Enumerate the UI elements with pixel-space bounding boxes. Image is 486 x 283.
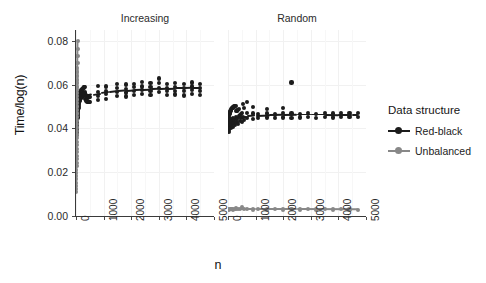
data-point — [104, 97, 108, 101]
data-point — [124, 94, 128, 98]
data-point — [76, 70, 79, 74]
x-tick-label: 1000 — [260, 199, 271, 221]
y-tick-label: 0.00 — [30, 211, 68, 221]
data-point — [273, 116, 277, 120]
panel-random — [228, 30, 366, 216]
data-point — [190, 92, 194, 96]
data-point — [256, 116, 260, 120]
data-point — [356, 111, 360, 115]
data-point — [306, 115, 310, 119]
data-point — [140, 92, 144, 96]
gridline-vertical-minor — [325, 30, 326, 216]
data-point — [289, 80, 293, 84]
data-point — [298, 207, 302, 211]
x-tick-mark — [186, 217, 187, 220]
legend-label: Red-black — [415, 125, 462, 137]
data-point — [331, 111, 335, 115]
data-point — [298, 115, 302, 119]
data-point — [331, 115, 335, 119]
x-tick-mark — [338, 217, 339, 220]
data-point — [251, 207, 255, 211]
data-point — [245, 100, 249, 104]
x-tick-mark — [366, 217, 367, 220]
legend-item-red-black[interactable]: Red-black — [388, 122, 486, 139]
data-point — [281, 115, 285, 119]
data-point — [76, 47, 80, 51]
data-point — [76, 39, 80, 43]
gridline-vertical — [256, 30, 257, 216]
data-point — [76, 161, 79, 165]
gridline-vertical — [283, 30, 284, 216]
legend-key-icon — [388, 125, 410, 137]
data-point — [76, 132, 79, 136]
legend-label: Unbalanced — [415, 145, 471, 157]
x-tick-label: 0 — [232, 215, 243, 221]
data-point — [298, 112, 302, 116]
data-point — [281, 207, 285, 211]
data-point — [76, 61, 80, 65]
data-point — [314, 112, 318, 116]
data-point — [289, 116, 293, 120]
x-tick-label: 2000 — [287, 199, 298, 221]
data-point — [124, 82, 128, 86]
data-point — [76, 181, 78, 185]
x-tick-label: 1000 — [108, 199, 119, 221]
data-point — [76, 168, 78, 172]
x-tick-mark — [76, 217, 77, 220]
x-tick-mark — [131, 217, 132, 220]
data-point — [173, 92, 177, 96]
data-point — [323, 115, 327, 119]
data-point — [76, 147, 79, 151]
gridline-vertical-minor — [200, 30, 201, 216]
x-tick-mark — [228, 217, 229, 220]
data-point — [104, 84, 108, 88]
gridline-vertical — [186, 30, 187, 216]
data-point — [76, 125, 79, 129]
data-point — [198, 93, 202, 97]
x-tick-label: 2000 — [135, 199, 146, 221]
x-tick-mark — [159, 217, 160, 220]
data-point — [251, 117, 255, 121]
data-point — [148, 93, 152, 97]
gridline-vertical — [131, 30, 132, 216]
y-axis-line — [75, 30, 76, 217]
y-axis-title: Time/log(n) — [13, 47, 31, 163]
data-point — [165, 93, 169, 97]
data-point — [76, 66, 79, 70]
gridline-vertical-minor — [90, 30, 91, 216]
data-point — [104, 92, 108, 96]
data-point — [88, 95, 92, 99]
data-point — [115, 94, 119, 98]
legend: Data structure Red-blackUnbalanced — [388, 104, 486, 162]
data-point — [157, 76, 161, 80]
data-point — [356, 115, 360, 119]
x-tick-mark — [256, 217, 257, 220]
gridline-vertical — [311, 30, 312, 216]
data-point — [96, 98, 100, 102]
legend-title: Data structure — [388, 104, 486, 116]
gridline-vertical-minor — [269, 30, 270, 216]
x-axis-title: n — [196, 258, 240, 272]
data-point — [347, 115, 351, 119]
gridline-vertical — [338, 30, 339, 216]
legend-item-unbalanced[interactable]: Unbalanced — [388, 142, 486, 159]
data-point — [251, 105, 255, 109]
x-tick-label: 4000 — [190, 199, 201, 221]
legend-entries: Red-blackUnbalanced — [388, 122, 486, 159]
gridline-vertical — [104, 30, 105, 216]
x-tick-label: 3000 — [163, 199, 174, 221]
data-point — [83, 85, 87, 89]
data-point — [76, 104, 79, 108]
panel-title-random: Random — [228, 12, 366, 24]
gridline-vertical-minor — [145, 30, 146, 216]
data-point — [76, 154, 79, 158]
data-point — [347, 111, 351, 115]
y-tick-label: 0.02 — [30, 167, 68, 177]
data-point — [132, 93, 136, 97]
data-point — [76, 140, 79, 144]
data-point — [323, 111, 327, 115]
data-point — [339, 111, 343, 115]
data-point — [339, 115, 343, 119]
data-point — [228, 130, 231, 134]
data-point — [76, 118, 79, 122]
